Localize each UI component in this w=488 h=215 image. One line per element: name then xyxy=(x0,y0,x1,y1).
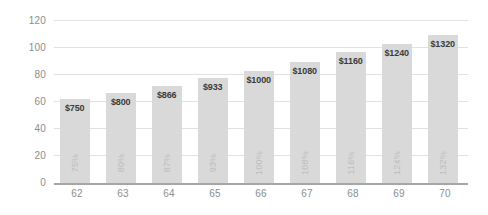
x-axis-tick-label: 70 xyxy=(422,188,468,199)
bar-value-label: $1240 xyxy=(382,48,412,58)
bar-slot: $75075% xyxy=(54,20,100,183)
bar-percent-label-wrap: 108% xyxy=(290,152,320,180)
bar-chart: 120 100 80 60 40 20 0 $75075%$80080%$866… xyxy=(0,0,488,215)
bar[interactable]: $1240124% xyxy=(382,44,412,183)
x-axis-tick-label: 62 xyxy=(54,188,100,199)
bar[interactable]: $80080% xyxy=(106,93,136,183)
x-axis-tick-label: 64 xyxy=(146,188,192,199)
bar-percent-label: 87% xyxy=(162,154,172,173)
x-axis-tick-label: 69 xyxy=(376,188,422,199)
y-axis-tick-label: 80 xyxy=(34,69,46,80)
x-axis-tick-label: 66 xyxy=(238,188,284,199)
bar-percent-label-wrap: 124% xyxy=(382,152,412,180)
bar-slot: $86687% xyxy=(146,20,192,183)
bar-value-label: $933 xyxy=(198,82,228,92)
bar-slot: $1080108% xyxy=(284,20,330,183)
x-axis-tick-label: 65 xyxy=(192,188,238,199)
bar-percent-label: 93% xyxy=(208,154,218,173)
bar-slot: $1240124% xyxy=(376,20,422,183)
bar[interactable]: $1080108% xyxy=(290,62,320,184)
y-axis-tick-label: 40 xyxy=(34,123,46,134)
y-axis-tick-label: 20 xyxy=(34,150,46,161)
bar-value-label: $1000 xyxy=(244,75,274,85)
bar-value-label: $1160 xyxy=(336,56,366,66)
bar-value-label: $800 xyxy=(106,97,136,107)
bar[interactable]: $93393% xyxy=(198,78,228,183)
bar-percent-label-wrap: 87% xyxy=(152,152,182,180)
bar[interactable]: $1000100% xyxy=(244,71,274,183)
bar-percent-label-wrap: 75% xyxy=(60,152,90,180)
y-axis-tick-label: 100 xyxy=(29,42,46,53)
bar-percent-label-wrap: 116% xyxy=(336,152,366,180)
x-axis-tick-label: 68 xyxy=(330,188,376,199)
bar-slot: $1160116% xyxy=(330,20,376,183)
bar-percent-label: 132% xyxy=(438,151,448,175)
bar-percent-label: 108% xyxy=(300,151,310,175)
x-axis-labels: 626364656667686970 xyxy=(54,188,468,208)
x-axis-tick-label: 63 xyxy=(100,188,146,199)
bar-percent-label-wrap: 100% xyxy=(244,152,274,180)
bar-percent-label-wrap: 132% xyxy=(428,152,458,180)
bar-slot: $80080% xyxy=(100,20,146,183)
bar-value-label: $1320 xyxy=(428,39,458,49)
y-axis-tick-label: 60 xyxy=(34,96,46,107)
bar-series: $75075%$80080%$86687%$93393%$1000100%$10… xyxy=(54,20,468,183)
x-axis-line xyxy=(54,183,468,185)
bar-percent-label-wrap: 80% xyxy=(106,152,136,180)
bar[interactable]: $75075% xyxy=(60,99,90,183)
bar[interactable]: $86687% xyxy=(152,86,182,183)
bar-slot: $1000100% xyxy=(238,20,284,183)
y-axis-tick-label: 120 xyxy=(29,15,46,26)
bar-value-label: $866 xyxy=(152,90,182,100)
x-axis-tick-label: 67 xyxy=(284,188,330,199)
bar-percent-label: 124% xyxy=(392,151,402,175)
bar-slot: $1320132% xyxy=(422,20,468,183)
bar-value-label: $750 xyxy=(60,103,90,113)
bar-percent-label: 75% xyxy=(70,154,80,173)
bar-percent-label: 100% xyxy=(254,151,264,175)
bar-slot: $93393% xyxy=(192,20,238,183)
bar[interactable]: $1160116% xyxy=(336,52,366,183)
y-axis-tick-label: 0 xyxy=(40,177,46,188)
bar-percent-label: 80% xyxy=(116,154,126,173)
bar-percent-label-wrap: 93% xyxy=(198,152,228,180)
bar-percent-label: 116% xyxy=(346,151,356,174)
bar-value-label: $1080 xyxy=(290,66,320,76)
bar[interactable]: $1320132% xyxy=(428,35,458,184)
